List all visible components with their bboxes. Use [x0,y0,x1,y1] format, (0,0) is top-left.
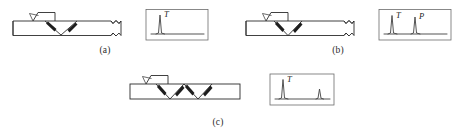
panel-caption-a: (a) [85,45,125,55]
specimen-plate-a [13,21,121,37]
scope-display-a: T [146,9,208,40]
beam-path-a [45,21,78,35]
panel-caption-b: (b) [318,45,358,55]
probe-transducer-c [143,76,169,85]
specimen-plate-c [130,84,240,99]
beam-path-b [274,21,303,36]
ultrasonic-inspection-figure: T [0,0,466,140]
probe-transducer-a [30,13,56,22]
scope-display-c: T [270,74,334,105]
panel-caption-c: (c) [198,117,238,127]
scope-display-b: T P [379,10,451,41]
probe-transducer-b [263,13,289,22]
scope-peak-label-P-b: P [418,11,424,21]
beam-path-c [156,84,213,99]
